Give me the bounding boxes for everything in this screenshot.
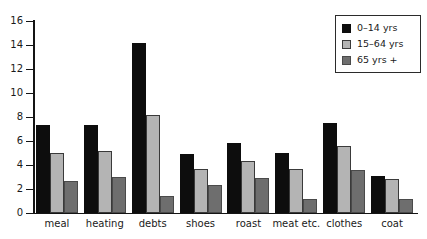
y-axis-tick-label: 16	[0, 16, 23, 26]
bar-group	[84, 21, 126, 213]
x-axis-category-label: shoes	[177, 218, 225, 229]
bar	[371, 176, 385, 213]
bar	[241, 161, 255, 213]
legend-item: 0–14 yrs	[342, 21, 414, 35]
bar-group	[132, 21, 174, 213]
legend-item: 15–64 yrs	[342, 37, 414, 51]
bar	[337, 146, 351, 213]
y-axis-tick	[26, 117, 33, 118]
x-axis-category-label: clothes	[320, 218, 368, 229]
bar	[146, 115, 160, 213]
bar	[112, 177, 126, 213]
y-axis-line	[33, 20, 35, 214]
x-axis-category-label: roast	[225, 218, 273, 229]
bar	[208, 185, 222, 213]
legend-item: 65 yrs +	[342, 53, 414, 67]
legend-label: 65 yrs +	[357, 55, 398, 65]
bar	[289, 169, 303, 213]
y-axis-tick	[26, 21, 33, 22]
bar	[275, 153, 289, 213]
bar	[84, 125, 98, 213]
y-axis-tick	[26, 189, 33, 190]
bar	[132, 43, 146, 213]
bar-group	[36, 21, 78, 213]
bar	[36, 125, 50, 213]
bar	[227, 143, 241, 213]
y-axis-tick-label: 12	[0, 64, 23, 74]
bar	[399, 199, 413, 213]
x-axis-category-label: heating	[81, 218, 129, 229]
bar	[98, 151, 112, 213]
bar	[303, 199, 317, 213]
bar	[351, 170, 365, 213]
legend-swatch	[342, 24, 351, 33]
legend-label: 0–14 yrs	[357, 23, 397, 33]
y-axis-tick-label: 6	[0, 136, 23, 146]
legend-swatch	[342, 40, 351, 49]
x-axis-category-label: meal	[33, 218, 81, 229]
x-axis-category-label: debts	[129, 218, 177, 229]
y-axis-tick-label: 4	[0, 160, 23, 170]
bar-group	[180, 21, 222, 213]
y-axis-tick	[26, 45, 33, 46]
y-axis-tick	[26, 141, 33, 142]
x-axis-category-label: coat	[368, 218, 416, 229]
bar	[255, 178, 269, 213]
bar	[385, 179, 399, 213]
y-axis-tick-label: 2	[0, 184, 23, 194]
bar-chart: 0246810121416 mealheatingdebtsshoesroast…	[0, 0, 427, 239]
bar	[323, 123, 337, 213]
y-axis-tick-label: 10	[0, 88, 23, 98]
bar-group	[275, 21, 317, 213]
y-axis-tick	[26, 165, 33, 166]
bar	[160, 196, 174, 213]
y-axis-tick-label: 0	[0, 208, 23, 218]
bar	[194, 169, 208, 213]
bar	[180, 154, 194, 213]
bar	[64, 181, 78, 213]
x-axis-category-label: meat etc.	[272, 218, 320, 229]
y-axis-tick	[26, 93, 33, 94]
legend-label: 15–64 yrs	[357, 39, 403, 49]
legend-swatch	[342, 56, 351, 65]
bar	[50, 153, 64, 213]
top-caption-remnant	[6, 0, 306, 5]
y-axis-tick-label: 8	[0, 112, 23, 122]
y-axis-tick-label: 14	[0, 40, 23, 50]
y-axis-tick	[26, 213, 33, 214]
y-axis-tick	[26, 69, 33, 70]
legend: 0–14 yrs15–64 yrs65 yrs +	[335, 15, 421, 73]
bar-group	[227, 21, 269, 213]
